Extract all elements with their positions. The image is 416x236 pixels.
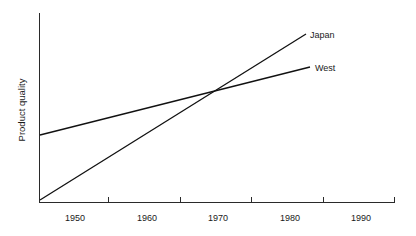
series-line-japan [40, 34, 306, 200]
x-tick-label-1980: 1980 [280, 213, 300, 223]
chart-container: 1950 1960 1970 1980 1990 Product quality… [0, 0, 416, 236]
series-label-west: West [315, 63, 336, 73]
x-tick-label-1960: 1960 [137, 213, 157, 223]
series-line-west [40, 67, 310, 135]
x-tick-label-1950: 1950 [65, 213, 85, 223]
x-tick-label-1970: 1970 [208, 213, 228, 223]
y-axis-title: Product quality [16, 78, 27, 141]
x-tick-label-1990: 1990 [351, 213, 371, 223]
line-chart: 1950 1960 1970 1980 1990 Product quality… [0, 0, 416, 236]
series-label-japan: Japan [310, 30, 335, 40]
